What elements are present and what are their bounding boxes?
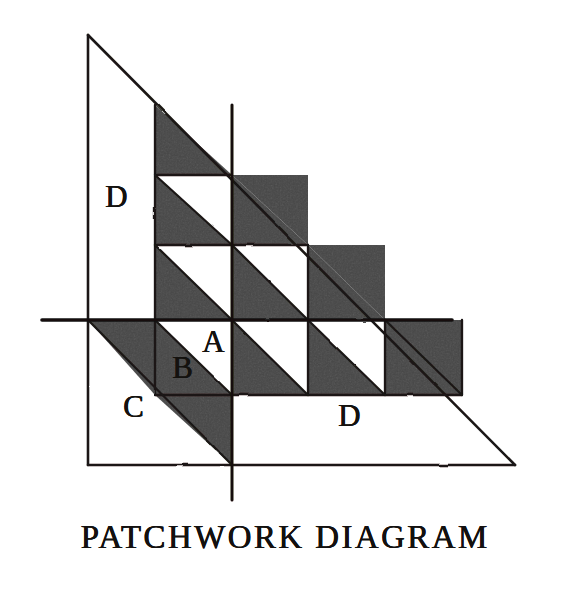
diagram-canvas bbox=[0, 0, 570, 595]
region-label-a: A bbox=[202, 326, 225, 357]
region-label-d-lower-right: D bbox=[338, 400, 361, 431]
triangle-hypotenuse bbox=[88, 35, 515, 465]
patchwork-diagram-figure: D A B C D PATCHWORK DIAGRAM bbox=[0, 0, 570, 595]
outer-triangle-outline bbox=[88, 35, 515, 465]
region-label-d-upper-left: D bbox=[105, 181, 128, 212]
region-label-c: C bbox=[123, 391, 144, 422]
figure-title-caption: PATCHWORK DIAGRAM bbox=[0, 519, 570, 556]
region-label-b: B bbox=[172, 352, 193, 383]
